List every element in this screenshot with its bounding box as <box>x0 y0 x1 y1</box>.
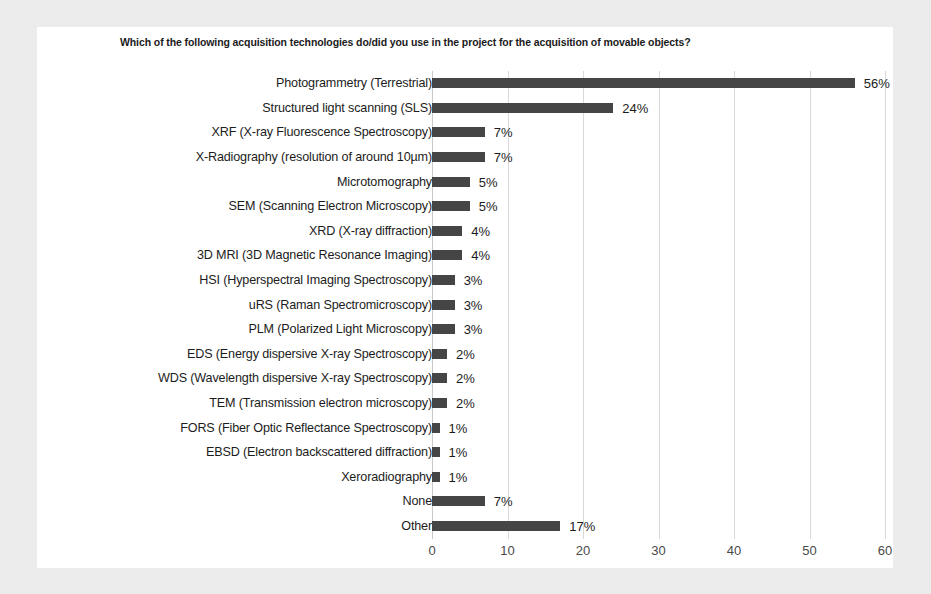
category-label: WDS (Wavelength dispersive X-ray Spectro… <box>158 371 432 385</box>
category-label: FORS (Fiber Optic Reflectance Spectrosco… <box>180 421 432 435</box>
bar-row: uRS (Raman Spectromicroscopy)3% <box>37 292 893 317</box>
bar-row: Structured light scanning (SLS)24% <box>37 96 893 121</box>
x-tick-label: 60 <box>878 543 892 558</box>
bar-row: EDS (Energy dispersive X-ray Spectroscop… <box>37 342 893 367</box>
bar-row: None7% <box>37 489 893 514</box>
category-label: EDS (Energy dispersive X-ray Spectroscop… <box>187 347 432 361</box>
bar[interactable] <box>432 152 485 162</box>
bar[interactable] <box>432 226 462 236</box>
bar[interactable] <box>432 275 455 285</box>
bar-row: FORS (Fiber Optic Reflectance Spectrosco… <box>37 415 893 440</box>
category-label: 3D MRI (3D Magnetic Resonance Imaging) <box>197 248 432 262</box>
value-label: 4% <box>471 248 490 263</box>
value-label: 1% <box>449 445 468 460</box>
value-label: 2% <box>456 346 475 361</box>
bar[interactable] <box>432 103 613 113</box>
category-label: Photogrammetry (Terrestrial) <box>276 76 432 90</box>
x-axis: 0102030405060 <box>37 541 893 568</box>
bar[interactable] <box>432 521 560 531</box>
category-label: XRF (X-ray Fluorescence Spectroscopy) <box>211 125 432 139</box>
bar[interactable] <box>432 423 440 433</box>
value-label: 1% <box>449 469 468 484</box>
bar-row: Xeroradiography1% <box>37 465 893 490</box>
bar-row: HSI (Hyperspectral Imaging Spectroscopy)… <box>37 268 893 293</box>
chart-panel: Which of the following acquisition techn… <box>37 27 893 568</box>
value-label: 7% <box>494 494 513 509</box>
value-label: 3% <box>464 322 483 337</box>
category-label: Microtomography <box>337 175 432 189</box>
bar[interactable] <box>432 373 447 383</box>
bar-row: X-Radiography (resolution of around 10µm… <box>37 145 893 170</box>
chart-title: Which of the following acquisition techn… <box>120 36 880 48</box>
value-label: 7% <box>494 125 513 140</box>
bar-row: Microtomography5% <box>37 169 893 194</box>
value-label: 7% <box>494 150 513 165</box>
bar[interactable] <box>432 398 447 408</box>
category-label: TEM (Transmission electron microscopy) <box>209 396 432 410</box>
bar-row: EBSD (Electron backscattered diffraction… <box>37 440 893 465</box>
category-label: uRS (Raman Spectromicroscopy) <box>249 298 432 312</box>
value-label: 5% <box>479 199 498 214</box>
category-label: X-Radiography (resolution of around 10µm… <box>196 150 432 164</box>
bar[interactable] <box>432 127 485 137</box>
x-tick-label: 40 <box>727 543 741 558</box>
category-label: Other <box>401 519 432 533</box>
value-label: 24% <box>622 100 648 115</box>
value-label: 1% <box>449 420 468 435</box>
value-label: 56% <box>864 76 890 91</box>
bar-row: PLM (Polarized Light Microscopy)3% <box>37 317 893 342</box>
x-tick-label: 20 <box>576 543 590 558</box>
category-label: PLM (Polarized Light Microscopy) <box>249 322 432 336</box>
bar[interactable] <box>432 324 455 334</box>
bar[interactable] <box>432 349 447 359</box>
category-label: Structured light scanning (SLS) <box>262 101 432 115</box>
value-label: 3% <box>464 273 483 288</box>
bar[interactable] <box>432 201 470 211</box>
bar[interactable] <box>432 177 470 187</box>
x-tick-label: 50 <box>802 543 816 558</box>
category-label: Xeroradiography <box>341 470 432 484</box>
bar-row: Other17% <box>37 514 893 539</box>
category-label: XRD (X-ray diffraction) <box>309 224 432 238</box>
value-label: 5% <box>479 174 498 189</box>
x-tick-label: 30 <box>651 543 665 558</box>
category-label: HSI (Hyperspectral Imaging Spectroscopy) <box>199 273 432 287</box>
bar-row: TEM (Transmission electron microscopy)2% <box>37 391 893 416</box>
bar[interactable] <box>432 496 485 506</box>
value-label: 17% <box>569 519 595 534</box>
category-label: None <box>402 494 432 508</box>
value-label: 2% <box>456 396 475 411</box>
bar-row: SEM (Scanning Electron Microscopy)5% <box>37 194 893 219</box>
bar-row: XRD (X-ray diffraction)4% <box>37 219 893 244</box>
bar-row: Photogrammetry (Terrestrial)56% <box>37 71 893 96</box>
bar[interactable] <box>432 78 855 88</box>
value-label: 4% <box>471 223 490 238</box>
bar-row: 3D MRI (3D Magnetic Resonance Imaging)4% <box>37 243 893 268</box>
bar-row: XRF (X-ray Fluorescence Spectroscopy)7% <box>37 120 893 145</box>
bar[interactable] <box>432 250 462 260</box>
bar-row: WDS (Wavelength dispersive X-ray Spectro… <box>37 366 893 391</box>
bar[interactable] <box>432 472 440 482</box>
bar[interactable] <box>432 300 455 310</box>
bar[interactable] <box>432 447 440 457</box>
plot-area: Photogrammetry (Terrestrial)56%Structure… <box>37 71 893 541</box>
x-tick-label: 10 <box>500 543 514 558</box>
category-label: SEM (Scanning Electron Microscopy) <box>229 199 432 213</box>
value-label: 2% <box>456 371 475 386</box>
category-label: EBSD (Electron backscattered diffraction… <box>206 445 432 459</box>
x-tick-label: 0 <box>428 543 435 558</box>
value-label: 3% <box>464 297 483 312</box>
